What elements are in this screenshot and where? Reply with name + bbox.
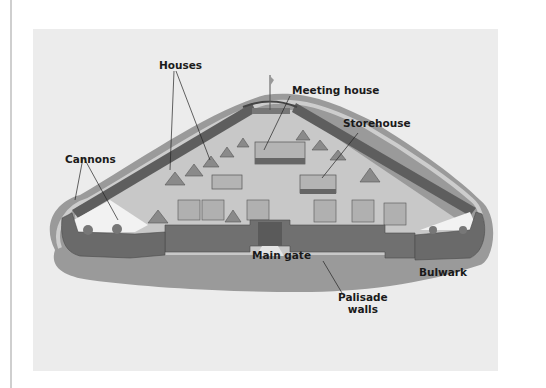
label-cannons: Cannons <box>65 153 116 165</box>
fort-illustration <box>0 0 546 388</box>
label-storehouse: Storehouse <box>343 117 411 129</box>
label-houses: Houses <box>159 59 202 71</box>
label-main-gate: Main gate <box>252 249 311 261</box>
label-palisade-line2: walls <box>338 303 388 315</box>
label-bulwark: Bulwark <box>419 266 467 278</box>
flag <box>270 76 274 86</box>
label-palisade-line1: Palisade <box>338 291 388 303</box>
label-meeting-house: Meeting house <box>292 84 380 96</box>
main-gate <box>258 222 282 246</box>
label-palisade-walls: Palisade walls <box>338 291 388 315</box>
